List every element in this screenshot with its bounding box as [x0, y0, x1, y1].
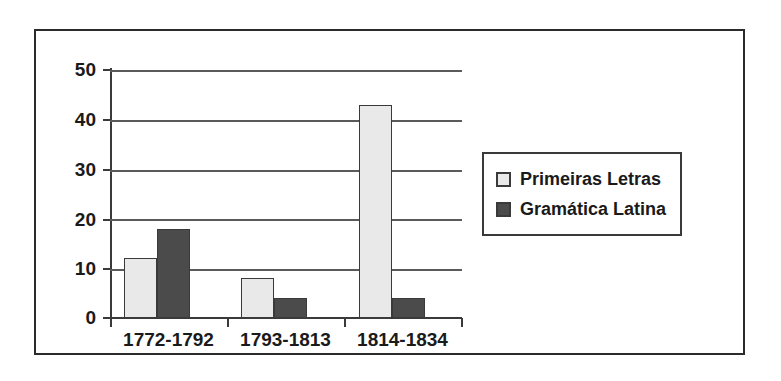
x-tick-mark	[344, 318, 346, 327]
legend-label: Gramática Latina	[520, 200, 666, 218]
bar-1772-1792-series-1	[157, 229, 190, 318]
chart-legend: Primeiras Letras Gramática Latina	[482, 152, 682, 236]
gridline-50	[110, 70, 462, 72]
bar-1814-1834-series-1	[392, 298, 425, 318]
x-tick-label-2: 1814-1834	[344, 330, 461, 349]
bar-1772-1792-series-0	[124, 258, 157, 318]
bar-1793-1813-series-0	[241, 278, 274, 318]
y-tick-label-30: 30	[48, 160, 96, 179]
x-tick-label-1: 1793-1813	[227, 330, 344, 349]
legend-swatch-icon	[496, 202, 511, 217]
x-tick-mark	[110, 318, 112, 327]
legend-label: Primeiras Letras	[520, 170, 661, 188]
legend-swatch-icon	[496, 172, 511, 187]
legend-item-gramatica-latina[interactable]: Gramática Latina	[496, 194, 666, 224]
plot-area	[110, 70, 462, 318]
y-tick-label-50: 50	[48, 60, 96, 79]
gridline-30	[110, 170, 462, 172]
chart-figure: 50 40 30 20 10 0 1772-1792 1793-1813 181…	[0, 0, 781, 381]
y-tick-label-10: 10	[48, 259, 96, 278]
x-tick-mark	[461, 318, 463, 327]
gridline-20	[110, 219, 462, 221]
x-tick-label-0: 1772-1792	[110, 330, 227, 349]
y-tick-label-40: 40	[48, 110, 96, 129]
x-tick-mark	[227, 318, 229, 327]
bar-1814-1834-series-0	[359, 105, 392, 318]
x-axis-line	[110, 317, 462, 319]
bar-1793-1813-series-1	[274, 298, 307, 318]
legend-item-primeiras-letras[interactable]: Primeiras Letras	[496, 164, 666, 194]
y-tick-label-0: 0	[48, 308, 96, 327]
gridline-40	[110, 120, 462, 122]
y-tick-label-20: 20	[48, 210, 96, 229]
